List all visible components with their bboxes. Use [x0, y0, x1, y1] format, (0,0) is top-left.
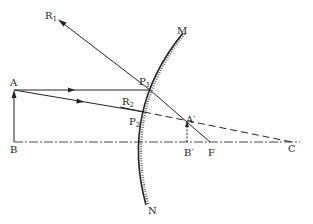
- object-arrow: [12, 90, 17, 142]
- label-F: F: [208, 147, 215, 158]
- incident-ray-1: [14, 88, 150, 93]
- label-B-prime: B′: [184, 147, 194, 158]
- reflected-ray-R1: [58, 20, 150, 91]
- label-N: N: [148, 205, 157, 216]
- virtual-ray-to-C: [144, 112, 292, 142]
- label-R1: R1: [45, 10, 57, 23]
- label-M: M: [177, 25, 187, 36]
- label-P1: P1: [139, 76, 150, 89]
- label-P2: P2: [129, 116, 140, 129]
- virtual-ray-to-F: [150, 90, 210, 142]
- label-R2: R2: [122, 96, 134, 109]
- label-B: B: [10, 144, 17, 155]
- label-C: C: [288, 143, 296, 154]
- label-A-prime: A′: [185, 114, 196, 125]
- ray-diagram: R1 M P1 A R2 P2 A′ B B′ F C N: [0, 0, 313, 224]
- label-A: A: [9, 77, 18, 88]
